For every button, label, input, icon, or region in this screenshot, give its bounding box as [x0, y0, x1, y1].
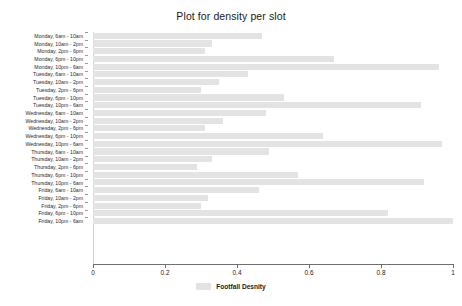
y-axis-label: Friday, 10am - 2pm: [0, 194, 88, 202]
x-axis-tick-label: 0.6: [305, 269, 314, 276]
y-axis-label-text: Wednesday, 10am - 2pm: [26, 118, 83, 124]
y-axis-tick: [85, 148, 88, 149]
x-axis-tick: [381, 264, 382, 268]
y-axis-label: Thursday, 2pm - 6pm: [0, 163, 88, 171]
y-axis-tick: [85, 78, 88, 79]
x-axis-tick: [453, 264, 454, 268]
x-axis-tick-label: 0.4: [233, 269, 242, 276]
y-axis-tick: [85, 94, 88, 95]
bar-footfall-density: [93, 156, 212, 162]
x-axis-tick: [165, 264, 166, 268]
y-axis-label: Tuesday, 6pm - 10pm: [0, 94, 88, 102]
bar-row: [93, 202, 453, 210]
y-axis-tick: [85, 125, 88, 126]
y-axis-label-text: Tuesday, 6pm - 10pm: [33, 95, 83, 101]
bar-footfall-density: [93, 164, 197, 170]
bar-row: [93, 148, 453, 156]
bar-row: [93, 217, 453, 225]
y-axis-label-text: Friday, 2pm - 6pm: [41, 203, 83, 209]
y-axis-label: Monday, 6am - 10am: [0, 32, 88, 40]
bar-row: [93, 71, 453, 79]
bar-row: [93, 132, 453, 140]
bar-footfall-density: [93, 141, 442, 147]
y-axis-label-text: Tuesday, 2pm - 6pm: [36, 87, 83, 93]
y-axis-tick: [85, 140, 88, 141]
y-axis-label-text: Monday, 6pm - 10pm: [34, 56, 83, 62]
legend-label-footfall-density: Footfall Desnity: [216, 283, 265, 290]
chart-title: Plot for density per slot: [0, 10, 462, 22]
bar-row: [93, 94, 453, 102]
y-axis-label-text: Wednesday, 10pm - 6am: [26, 141, 83, 147]
y-axis-tick: [85, 55, 88, 56]
bar-row: [93, 40, 453, 48]
bar-footfall-density: [93, 187, 259, 193]
bar-footfall-density: [93, 48, 205, 54]
footfall-density-bar-chart: Plot for density per slot Monday, 6am - …: [0, 0, 462, 306]
plot-area: [93, 32, 453, 264]
y-axis-label: Tuesday, 10pm - 6am: [0, 101, 88, 109]
bar-footfall-density: [93, 125, 205, 131]
chart-legend: Footfall Desnity: [0, 283, 462, 290]
y-axis-label-text: Thursday, 10am - 2pm: [31, 156, 83, 162]
y-axis-tick: [85, 186, 88, 187]
bar-row: [93, 125, 453, 133]
y-axis-tick: [85, 63, 88, 64]
y-axis-label-text: Friday, 10pm - 6am: [38, 218, 83, 224]
bar-row: [93, 32, 453, 40]
bar-footfall-density: [93, 94, 284, 100]
y-axis-label: Monday, 10am - 2pm: [0, 40, 88, 48]
y-axis-label: Thursday, 6pm - 10pm: [0, 171, 88, 179]
bar-footfall-density: [93, 210, 388, 216]
y-axis-label-text: Friday, 6pm - 10pm: [38, 210, 83, 216]
bar-row: [93, 117, 453, 125]
y-axis-label: Monday, 10pm - 6am: [0, 63, 88, 71]
y-axis-tick: [85, 32, 88, 33]
y-axis-label-text: Monday, 2pm - 6pm: [37, 48, 83, 54]
bar-row: [93, 78, 453, 86]
x-axis-tick-label: 0: [91, 269, 95, 276]
y-axis-tick: [85, 194, 88, 195]
y-axis-tick: [85, 171, 88, 172]
bar-footfall-density: [93, 71, 248, 77]
bar-footfall-density: [93, 195, 208, 201]
x-axis-tick-label: 0.2: [161, 269, 170, 276]
y-axis-tick: [85, 156, 88, 157]
y-axis-label: Wednesday, 10am - 2pm: [0, 117, 88, 125]
y-axis-tick: [85, 109, 88, 110]
x-axis-tick: [237, 264, 238, 268]
x-axis-tick: [93, 264, 94, 268]
legend-swatch-footfall-density: [196, 283, 211, 290]
y-axis-label-text: Monday, 6am - 10am: [34, 33, 83, 39]
bar-footfall-density: [93, 56, 334, 62]
bar-footfall-density: [93, 64, 439, 70]
y-axis-tick: [85, 117, 88, 118]
y-axis-label: Friday, 2pm - 6pm: [0, 202, 88, 210]
y-axis-label: Monday, 2pm - 6pm: [0, 47, 88, 55]
y-axis-label: Friday, 6pm - 10pm: [0, 210, 88, 218]
y-axis-label: Monday, 6pm - 10pm: [0, 55, 88, 63]
y-axis-tick: [85, 101, 88, 102]
y-axis-label: Friday, 6am - 10am: [0, 186, 88, 194]
y-axis-tick: [85, 217, 88, 218]
y-axis-label-text: Tuesday, 10am - 2pm: [33, 79, 83, 85]
bar-footfall-density: [93, 79, 219, 85]
y-axis-tick: [85, 132, 88, 133]
y-axis-label-text: Friday, 6am - 10am: [38, 187, 83, 193]
y-axis-label-text: Wednesday, 6am - 10am: [26, 110, 83, 116]
y-axis-label: Wednesday, 10pm - 6am: [0, 140, 88, 148]
y-axis-labels: Monday, 6am - 10amMonday, 10am - 2pmMond…: [0, 32, 88, 264]
x-axis-tick-label: 0.8: [377, 269, 386, 276]
bar-row: [93, 194, 453, 202]
bar-row: [93, 86, 453, 94]
y-axis-label-text: Thursday, 10pm - 6am: [31, 180, 83, 186]
y-axis-label-text: Wednesday, 6pm - 10pm: [26, 133, 83, 139]
y-axis-tick: [85, 86, 88, 87]
y-axis-label-text: Tuesday, 6am - 10am: [33, 71, 83, 77]
bar-row: [93, 47, 453, 55]
bar-footfall-density: [93, 148, 269, 154]
y-axis-label-text: Friday, 10am - 2pm: [38, 195, 83, 201]
y-axis-tick: [85, 71, 88, 72]
y-axis-tick: [85, 163, 88, 164]
y-axis-label: Thursday, 10pm - 6am: [0, 179, 88, 187]
bar-footfall-density: [93, 33, 262, 39]
